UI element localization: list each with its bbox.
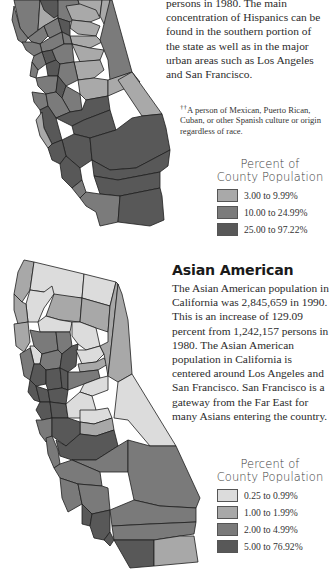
county [48,388,68,404]
legend-title-line1: Percent of [214,458,326,471]
asian-description: The Asian American population in Califor… [172,281,329,423]
county [114,374,176,446]
legend-item: 0.25 to 0.99% [217,487,326,504]
legend-item: 1.00 to 1.99% [217,504,326,521]
legend-item: 2.00 to 4.99% [217,521,326,538]
legend-label: 5.00 to 76.92% [244,541,303,552]
hispanic-counties [12,0,170,226]
legend-swatch [217,523,238,536]
asian-legend: Percent of County Population 0.25 to 0.9… [214,458,326,555]
county [36,76,58,94]
legend-title-line2: County Population [214,171,326,184]
legend-swatch [217,189,238,202]
legend-swatch [217,540,238,553]
legend-title-line2: County Population [214,471,326,484]
county [114,540,154,568]
hispanic-legend: Percent of County Population 3.00 to 9.9… [214,158,326,238]
county [118,72,162,116]
legend-title: Percent of County Population [214,158,326,183]
county [14,322,30,352]
legend-item: 5.00 to 76.92% [217,538,326,555]
legend-title: Percent of County Population [214,458,326,483]
hispanic-footnote: ††A person of Mexican, Puerto Rican, Cub… [180,102,330,136]
county [128,440,200,508]
legend-label: 25.00 to 97.22% [244,224,307,235]
legend-label: 2.00 to 4.99% [244,524,298,535]
legend-item: 3.00 to 9.99% [217,187,326,204]
county [46,368,62,390]
county [74,60,104,80]
legend-swatch [217,506,238,519]
county [50,402,68,418]
legend-swatch [217,206,238,219]
county [36,402,52,420]
legend-swatch [217,223,238,236]
county [154,536,198,566]
legend-item: 10.00 to 24.99% [217,204,326,221]
footnote-text: A person of Mexican, Puerto Rican, Cuban… [180,105,321,136]
asian-american-heading: Asian American [172,262,293,278]
footnote-mark: †† [180,103,187,111]
legend-label: 0.25 to 0.99% [244,490,298,501]
hispanic-description: persons in 1980. The main concentration … [166,0,326,81]
county [80,192,120,226]
legend-label: 10.00 to 24.99% [244,207,307,218]
county [70,20,100,36]
legend-title-line1: Percent of [214,158,326,171]
legend-item: 25.00 to 97.22% [217,221,326,238]
legend-label: 3.00 to 9.99% [244,190,298,201]
legend-label: 1.00 to 1.99% [244,507,298,518]
legend-swatch [217,489,238,502]
